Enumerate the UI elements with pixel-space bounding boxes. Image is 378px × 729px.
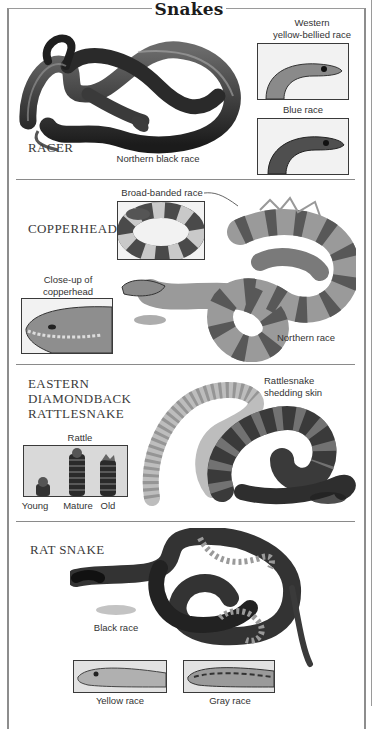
racer-northern-black-illustration — [18, 26, 250, 156]
caption-yellow-race: Yellow race — [80, 695, 160, 707]
rattle-label-mature: Mature — [58, 500, 98, 512]
section-title-eastern-diamondback-rattlesnake: EASTERN DIAMONDBACK RATTLESNAKE — [28, 376, 131, 421]
inset-blue-race — [257, 118, 349, 175]
divider-rattlesnake-rat-snake — [16, 521, 355, 522]
rattle-old-icon — [100, 454, 116, 496]
section-title-racer: RACER — [28, 140, 73, 155]
inset-rattle-stages — [23, 445, 128, 497]
section-title-copperhead: COPPERHEAD — [28, 221, 117, 236]
inset-yellow-race — [73, 660, 167, 693]
inset-western-yellow-bellied-race — [257, 43, 349, 100]
outer-page-edge — [371, 0, 372, 706]
divider-copperhead-rattlesnake — [16, 364, 355, 365]
caption-close-up-of-copperhead: Close-up of copperhead — [22, 274, 114, 298]
caption-black-race: Black race — [86, 622, 146, 634]
caption-western-yellow-bellied-race: Western yellow-bellied race — [262, 17, 362, 41]
caption-northern-race: Northern race — [266, 332, 346, 344]
inset-close-up-of-copperhead — [21, 298, 113, 354]
caption-northern-black-race: Northern black race — [108, 153, 208, 165]
caption-blue-race: Blue race — [257, 104, 349, 116]
rat-snake-black-race-illustration — [70, 528, 320, 668]
caption-gray-race: Gray race — [190, 695, 270, 707]
rattlesnake-shedding-skin-illustration — [142, 380, 356, 510]
rattle-young-icon — [36, 477, 50, 496]
caption-rattlesnake-shedding-skin: Rattlesnake shedding skin — [264, 375, 334, 399]
rattle-label-young: Young — [20, 500, 50, 512]
rattle-label-old: Old — [96, 500, 120, 512]
rattle-mature-icon — [69, 448, 85, 496]
inset-gray-race — [183, 660, 275, 693]
divider-racer-copperhead — [16, 179, 355, 180]
caption-rattle: Rattle — [50, 432, 110, 444]
